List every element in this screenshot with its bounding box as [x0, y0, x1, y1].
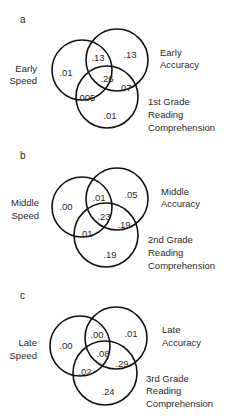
value-accuracy-only: .05 [124, 189, 137, 200]
value-speed-accuracy: .13 [91, 52, 104, 63]
value-speed-reading: .02 [78, 366, 91, 377]
value-speed-only: .01 [59, 67, 72, 78]
reading-label-line2: Reading [148, 109, 183, 120]
value-accuracy-reading: .07 [118, 82, 131, 93]
reading-label-line3: Comprehension [148, 260, 215, 271]
accuracy-label-line1: Early [160, 47, 182, 58]
reading-label-line3: Comprehension [148, 122, 215, 133]
speed-label-line2: Speed [10, 350, 37, 361]
value-reading-only: .01 [103, 110, 116, 121]
speed-label-line2: Speed [10, 75, 37, 86]
speed-label-line1: Late [19, 337, 38, 348]
value-speed-only: .00 [59, 201, 72, 212]
value-speed-accuracy: .00 [90, 329, 103, 340]
reading-label-line1: 1st Grade [148, 96, 190, 107]
speed-label-line1: Middle [11, 197, 39, 208]
reading-label-line3: Comprehension [146, 398, 213, 409]
value-accuracy-only: .13 [123, 49, 136, 60]
value-speed-reading: .01 [79, 228, 92, 239]
value-speed-only: .00 [59, 340, 72, 351]
value-all-three: .08 [96, 348, 109, 359]
reading-label-line1: 3rd Grade [146, 373, 189, 384]
panel-letter: b [20, 150, 26, 161]
speed-label-line2: Speed [12, 210, 39, 221]
venn-panel-a: a Early Speed Early Accuracy 1st Grade R… [0, 0, 228, 139]
panel-letter: c [20, 290, 25, 301]
value-speed-reading: .005 [77, 92, 96, 103]
accuracy-label-line2: Accuracy [161, 198, 200, 209]
accuracy-label-line1: Middle [161, 186, 189, 197]
reading-label-line2: Reading [148, 247, 183, 258]
venn-panel-c: c Late Speed Late Accuracy 3rd Grade Rea… [0, 280, 228, 418]
value-accuracy-reading: .29 [115, 358, 128, 369]
accuracy-label-line2: Accuracy [162, 337, 201, 348]
accuracy-label-line2: Accuracy [160, 59, 199, 70]
value-all-three: .23 [97, 211, 110, 222]
reading-label-line1: 2nd Grade [148, 234, 193, 245]
speed-label-line1: Early [15, 63, 37, 74]
value-all-three: .26 [100, 73, 113, 84]
accuracy-label-line1: Late [162, 324, 181, 335]
panel-letter: a [20, 14, 26, 25]
venn-panel-b: b Middle Speed Middle Accuracy 2nd Grade… [0, 140, 228, 279]
value-reading-only: .24 [101, 386, 114, 397]
value-accuracy-reading: .19 [117, 219, 130, 230]
value-accuracy-only: .01 [124, 328, 137, 339]
value-reading-only: .19 [103, 249, 116, 260]
value-speed-accuracy: .01 [92, 192, 105, 203]
reading-label-line2: Reading [146, 385, 181, 396]
